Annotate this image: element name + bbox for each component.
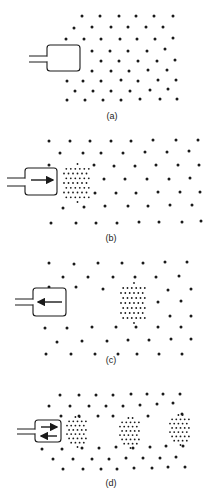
- compression-dot: [135, 297, 137, 299]
- compression-dot: [81, 192, 83, 194]
- molecule-dot: [190, 288, 193, 291]
- compression-dot: [186, 431, 188, 433]
- molecule-dot: [182, 445, 185, 448]
- molecule-dot: [158, 221, 161, 224]
- panel-label-d: (d): [106, 478, 117, 488]
- molecule-dot: [110, 140, 113, 143]
- molecule-dot: [108, 458, 111, 461]
- molecule-dot: [127, 50, 130, 53]
- compression-dot: [122, 307, 124, 309]
- molecule-dot: [130, 393, 133, 396]
- compression-dot: [70, 442, 72, 444]
- compression-dot: [68, 173, 70, 175]
- compression-dot: [65, 196, 67, 198]
- molecule-dot: [48, 164, 51, 167]
- molecule-dot: [167, 466, 170, 469]
- compression-dot: [138, 439, 140, 441]
- compression-dot: [184, 427, 186, 429]
- compression-dot: [184, 436, 186, 438]
- compression-dot: [144, 297, 146, 299]
- compression-dot: [127, 287, 129, 289]
- molecule-dot: [167, 88, 170, 91]
- compression-dot: [83, 433, 85, 435]
- compression-dot: [138, 430, 140, 432]
- compression-dot: [180, 418, 182, 420]
- molecule-dot: [115, 446, 118, 449]
- molecule-dot: [104, 205, 107, 208]
- molecule-dot: [175, 79, 178, 82]
- compression-dot: [123, 426, 125, 428]
- compression-dot: [130, 421, 132, 423]
- compression-dot: [134, 421, 136, 423]
- compression-dot: [79, 442, 81, 444]
- molecule-dot: [84, 99, 87, 102]
- compression-dot: [124, 292, 126, 294]
- compression-dot: [119, 434, 121, 436]
- compression-dot: [75, 442, 77, 444]
- compression-dot: [72, 438, 74, 440]
- compression-dot: [79, 177, 81, 179]
- molecule-dot: [167, 289, 170, 292]
- molecule-dot: [73, 27, 76, 30]
- compression-dot: [131, 317, 133, 319]
- molecule-dot: [95, 394, 98, 397]
- compression-dot: [81, 429, 83, 431]
- panel-label-c: (c): [106, 355, 117, 365]
- molecule-dot: [89, 140, 92, 143]
- compression-dot: [72, 173, 74, 175]
- molecule-dot: [165, 445, 168, 448]
- molecule-dot: [112, 394, 115, 397]
- compression-dot: [142, 302, 144, 304]
- compression-dot: [81, 420, 83, 422]
- molecule-dot: [197, 139, 200, 142]
- compression-dot: [123, 443, 125, 445]
- compression-dot: [81, 438, 83, 440]
- molecule-dot: [134, 165, 137, 168]
- compression-dot: [127, 297, 129, 299]
- molecule-dot: [66, 80, 69, 83]
- molecule-dot: [175, 456, 178, 459]
- compression-dot: [77, 429, 79, 431]
- compression-dot: [180, 444, 182, 446]
- molecule-dot: [128, 70, 131, 73]
- compression-dot: [178, 423, 180, 425]
- molecule-dot: [98, 447, 101, 450]
- molecule-dot: [180, 326, 183, 329]
- compression-dot: [182, 414, 184, 416]
- compression-dot: [184, 418, 186, 420]
- molecule-dot: [130, 140, 133, 143]
- molecule-dot: [139, 404, 142, 407]
- molecule-dot: [97, 415, 100, 418]
- molecule-dot: [118, 15, 121, 18]
- molecule-dot: [175, 139, 178, 142]
- compression-dot: [121, 439, 123, 441]
- molecule-dot: [145, 26, 148, 29]
- molecule-dot: [159, 98, 162, 101]
- compression-dot: [68, 438, 70, 440]
- molecule-dot: [45, 353, 48, 356]
- compression-dot: [133, 322, 135, 324]
- molecule-dot: [138, 221, 141, 224]
- compression-dot: [120, 312, 122, 314]
- molecule-dot: [169, 315, 172, 318]
- molecule-dot: [148, 339, 151, 342]
- molecule-dot: [135, 192, 138, 195]
- molecule-dot: [172, 37, 175, 40]
- compression-dot: [77, 163, 79, 165]
- compression-dot: [135, 307, 137, 309]
- molecule-dot: [116, 468, 119, 471]
- molecule-dot: [186, 261, 189, 264]
- compression-dot: [144, 307, 146, 309]
- compression-dot: [136, 434, 138, 436]
- molecule-dot: [132, 447, 135, 450]
- molecule-dot: [100, 60, 103, 63]
- compression-dot: [72, 420, 74, 422]
- molecule-dot: [147, 69, 150, 72]
- compression-dot: [132, 426, 134, 428]
- compression-dot: [188, 427, 190, 429]
- molecule-dot: [180, 300, 183, 303]
- compression-dot: [88, 168, 90, 170]
- molecule-dot: [157, 301, 160, 304]
- molecule-dot: [59, 152, 62, 155]
- molecule-dot: [72, 458, 75, 461]
